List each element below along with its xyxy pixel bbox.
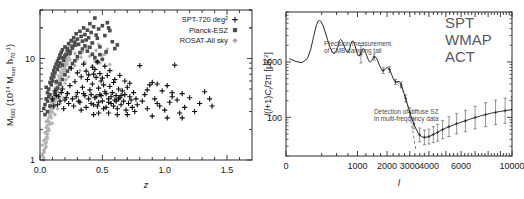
data-point [76, 37, 80, 41]
data-point [81, 47, 85, 51]
data-point [116, 43, 120, 47]
data-point [67, 75, 71, 79]
x-tick-label: 2000 [377, 161, 397, 171]
data-point [111, 40, 115, 44]
legend-label: SPT-720 deg2 [182, 15, 228, 25]
data-point [106, 100, 111, 105]
y-tick-label: 1 [30, 155, 35, 165]
data-point [155, 101, 160, 106]
data-point [152, 96, 157, 101]
scatter-plot-svg: 0.00.51.01.5z110M500 (1014 Msun h70-1)SP… [0, 0, 262, 199]
data-point [89, 31, 93, 35]
legend-marker [232, 38, 237, 43]
data-point [427, 135, 430, 138]
error-bars [359, 46, 513, 145]
data-point [100, 99, 105, 104]
data-point [81, 39, 85, 43]
data-point [102, 64, 107, 69]
data-point [192, 109, 197, 114]
data-point [79, 108, 84, 113]
data-point [63, 81, 67, 85]
data-point [46, 99, 50, 103]
data-point [423, 136, 426, 139]
data-point [209, 103, 214, 108]
data-point [106, 21, 110, 25]
data-point [46, 110, 50, 114]
data-point [72, 79, 77, 84]
legend-marker [232, 17, 238, 23]
data-point [77, 42, 81, 46]
x-axis-label: l [398, 178, 401, 188]
x-tick-label: 0.5 [96, 165, 109, 175]
data-point [155, 81, 160, 86]
data-point [123, 108, 128, 113]
data-point [97, 71, 102, 76]
data-point [197, 101, 202, 106]
data-point [78, 51, 82, 55]
data-point [87, 36, 91, 40]
data-point [127, 81, 132, 86]
legend-label: ROSAT-All sky [180, 36, 229, 45]
x-tick-label: 0.0 [34, 165, 47, 175]
data-point [162, 108, 167, 113]
data-point [51, 79, 55, 83]
data-point [133, 96, 138, 101]
x-tick-label: 0 [283, 161, 288, 171]
data-point [84, 105, 89, 110]
data-point [94, 48, 98, 52]
x-tick-label: 1.5 [221, 165, 234, 175]
data-point [96, 86, 101, 91]
data-point [48, 93, 52, 97]
x-tick-label: 10000 [499, 161, 524, 171]
data-point [86, 28, 90, 32]
data-point [52, 75, 56, 79]
data-point [80, 85, 85, 90]
data-point [68, 52, 72, 56]
data-point [86, 96, 91, 101]
data-point [49, 83, 53, 87]
data-point [93, 56, 97, 60]
data-point [42, 107, 46, 111]
data-point [93, 16, 97, 20]
y-tick-label: 10 [25, 54, 35, 64]
data-point [180, 115, 185, 120]
annotation-damping-tail-line1: Precision measurement [324, 40, 391, 47]
data-point [504, 109, 507, 112]
data-point [125, 85, 130, 90]
data-point [137, 63, 142, 68]
data-point [125, 112, 130, 117]
data-point [172, 63, 177, 68]
data-point [108, 101, 113, 106]
data-point [83, 44, 87, 48]
data-point [71, 103, 76, 108]
data-point [61, 78, 65, 82]
data-point [494, 111, 497, 114]
data-point [122, 78, 127, 83]
data-point [157, 103, 162, 108]
data-point [126, 101, 131, 106]
data-point [76, 55, 80, 59]
data-point [43, 103, 47, 107]
experiment-label: ACT [445, 48, 475, 65]
data-point [82, 26, 86, 30]
data-point [105, 73, 110, 78]
data-point [170, 90, 175, 95]
data-point [175, 97, 180, 102]
data-point [107, 84, 112, 89]
data-point [87, 87, 92, 92]
data-point [91, 52, 95, 56]
data-point [53, 71, 57, 75]
data-point [115, 112, 120, 117]
data-point [73, 59, 77, 63]
experiment-labels: SPTWMAPACT [445, 14, 492, 65]
data-point [98, 53, 102, 57]
data-point [412, 122, 415, 125]
experiment-label: SPT [445, 14, 474, 31]
data-point [91, 112, 96, 117]
data-point [64, 77, 68, 81]
data-point [98, 45, 102, 49]
x-tick-label: 1000 [347, 161, 367, 171]
data-point [145, 106, 150, 111]
data-point [113, 47, 117, 51]
data-point [86, 49, 90, 53]
